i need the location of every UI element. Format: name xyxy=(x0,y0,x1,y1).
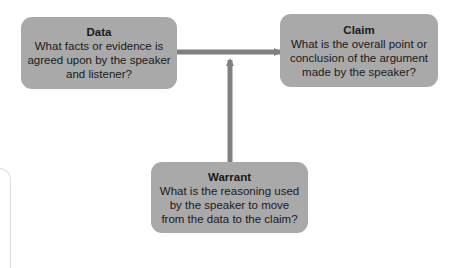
data-node-title: Data xyxy=(87,25,112,39)
warrant-node-text: What is the reasoning used by the speake… xyxy=(157,184,302,226)
warrant-node: Warrant What is the reasoning used by th… xyxy=(151,162,308,233)
claim-node-text: What is the overall point or conclusion … xyxy=(286,37,432,79)
warrant-node-title: Warrant xyxy=(208,170,251,184)
page-edge-frame xyxy=(0,168,11,268)
data-node-text: What facts or evidence is agreed upon by… xyxy=(27,39,171,81)
claim-node-title: Claim xyxy=(343,23,374,37)
data-node: Data What facts or evidence is agreed up… xyxy=(21,17,177,89)
claim-node: Claim What is the overall point or concl… xyxy=(280,14,438,87)
